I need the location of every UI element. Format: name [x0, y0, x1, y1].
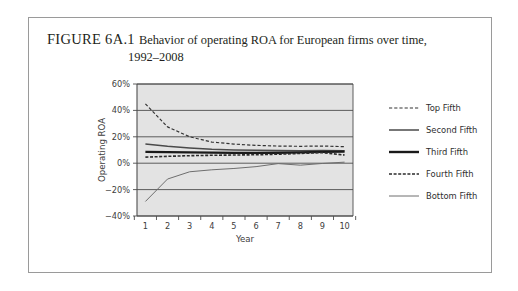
ytick-label-60: 60%	[112, 79, 130, 89]
figure-frame: FIGURE 6A.1 Behavior of operating ROA fo…	[28, 17, 492, 273]
xtick-label-5: 5	[231, 221, 236, 231]
xtick-label-2: 2	[165, 221, 170, 231]
series-line-third-fifth	[145, 152, 344, 153]
figure-caption: FIGURE 6A.1 Behavior of operating ROA fo…	[47, 30, 477, 65]
chart-legend: Top FifthSecond FifthThird FifthFourth F…	[389, 103, 477, 201]
xtick-label-9: 9	[320, 221, 325, 231]
ytick-label-40: 40%	[112, 105, 130, 115]
ytick-label-0: 0%	[117, 158, 130, 168]
ytick-label--20: −20%	[105, 185, 130, 195]
legend-label-third-fifth: Third Fifth	[425, 147, 468, 157]
ytick-label--40: −40%	[105, 211, 130, 221]
xtick-label-4: 4	[209, 221, 214, 231]
xtick-label-7: 7	[276, 221, 281, 231]
legend-label-fourth-fifth: Fourth Fifth	[426, 169, 474, 179]
legend-label-second-fifth: Second Fifth	[426, 125, 477, 135]
x-axis-title: Year	[235, 234, 255, 244]
xtick-label-3: 3	[187, 221, 192, 231]
caption-line-1: FIGURE 6A.1 Behavior of operating ROA fo…	[47, 30, 477, 48]
ytick-label-20: 20%	[112, 132, 130, 142]
xtick-label-8: 8	[298, 221, 303, 231]
roa-line-chart: −40%−20%0%20%40%60%12345678910YearOperat…	[65, 76, 485, 261]
figure-caption-text: Behavior of operating ROA for European f…	[139, 33, 427, 47]
legend-label-bottom-fifth: Bottom Fifth	[426, 191, 477, 201]
xtick-label-6: 6	[253, 221, 258, 231]
xtick-label-10: 10	[339, 221, 349, 231]
y-axis-title: Operating ROA	[97, 118, 107, 182]
caption-line-2: 1992–2008	[128, 50, 477, 65]
legend-label-top-fifth: Top Fifth	[425, 103, 461, 113]
xtick-label-1: 1	[143, 221, 148, 231]
figure-label: FIGURE 6A.1	[47, 31, 135, 47]
chart-region: −40%−20%0%20%40%60%12345678910YearOperat…	[65, 76, 485, 261]
